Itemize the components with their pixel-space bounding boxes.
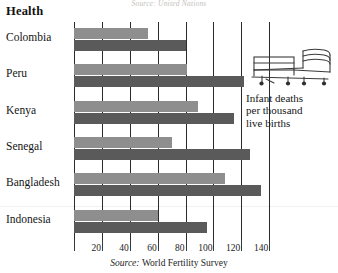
bar-light-bangladesh [74,173,225,184]
chart-title: Health [6,4,43,19]
category-label-kenya: Kenya [6,104,36,116]
bar-light-senegal [74,137,172,148]
bar-light-indonesia [74,210,158,221]
legend-line-1: Infant deaths [246,92,303,104]
source-note: Source: World Fertility Survey [0,258,338,268]
category-label-indonesia: Indonesia [6,213,51,225]
legend-line-2: per thousand [246,104,303,116]
tickmark-140 [269,240,270,251]
bar-light-kenya [74,101,198,112]
bleed-source-note: Source: United Nations [0,0,338,8]
gridline-20 [102,22,103,240]
ticklabel-80: 80 [159,243,185,253]
gridline-60 [158,22,159,240]
bar-dark-indonesia [74,222,207,233]
source-value: World Fertility Survey [142,258,228,268]
hospital-bed-icon [248,48,334,88]
ticklabel-20: 20 [75,243,101,253]
bar-dark-colombia [74,40,186,51]
legend-line-3: live births [246,117,290,129]
bar-dark-bangladesh [74,185,261,196]
category-label-peru: Peru [6,67,27,79]
ticklabel-40: 40 [103,243,129,253]
category-label-senegal: Senegal [6,140,42,152]
gridline-40 [130,22,131,240]
ticklabel-140: 140 [242,243,268,253]
bar-dark-senegal [74,149,250,160]
bar-dark-kenya [74,113,234,124]
category-label-bangladesh: Bangladesh [6,176,60,188]
gridline-120 [241,22,242,240]
category-label-colombia: Colombia [6,31,51,43]
source-label: Source: [110,258,139,268]
ticklabel-60: 60 [131,243,157,253]
gridline-80 [186,22,187,240]
bar-light-colombia [74,28,148,39]
chart-page: Source: United Nations Health 2040608010… [0,0,338,273]
axis-line-zero [74,22,75,240]
ticklabel-100: 100 [186,243,212,253]
bar-dark-peru [74,76,244,87]
bar-light-peru [74,64,187,75]
ticklabel-120: 120 [214,243,240,253]
legend-caption: Infant deaths per thousand live births [246,92,338,129]
tickmark-0 [74,240,75,251]
gridline-100 [213,22,214,240]
